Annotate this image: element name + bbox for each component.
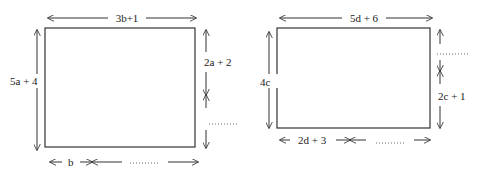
rect2-top-dimension: 5d + 6 bbox=[280, 12, 432, 24]
rect2-right-lower-label: 2c + 1 bbox=[438, 90, 466, 102]
rect1-top-dimension: 3b+1 bbox=[48, 12, 196, 24]
rect2-right-dimension: 2c + 1 bbox=[437, 30, 470, 128]
rect1-top-label: 3b+1 bbox=[116, 12, 139, 24]
rect2-right-gap bbox=[437, 44, 443, 60]
rect1-left-dimension: 5a + 4 bbox=[8, 30, 38, 150]
rectangle-2-group: 5d + 6 4c 2c + 1 2d + 3 bbox=[258, 12, 470, 146]
rect1-right-upper-label: 2a + 2 bbox=[204, 56, 232, 68]
rectangle-2 bbox=[277, 28, 430, 128]
rectangle-1 bbox=[45, 28, 195, 147]
rect1-bottom-left-label: b bbox=[68, 156, 74, 168]
rect2-left-label: 4c bbox=[260, 76, 271, 88]
diagram-canvas: 3b+1 5a + 4 2a + 2 b bbox=[0, 0, 481, 180]
rect2-bottom-dimension: 2d + 3 bbox=[280, 134, 430, 146]
rect1-right-dimension: 2a + 2 bbox=[203, 30, 239, 148]
rect1-left-label: 5a + 4 bbox=[10, 75, 38, 87]
rect1-right-gap bbox=[203, 108, 209, 130]
rect2-left-dimension: 4c bbox=[258, 32, 278, 128]
rectangle-1-group: 3b+1 5a + 4 2a + 2 b bbox=[8, 12, 239, 168]
rect2-bottom-left-label: 2d + 3 bbox=[298, 134, 327, 146]
rect2-top-label: 5d + 6 bbox=[350, 12, 379, 24]
rect1-bottom-dimension: b bbox=[50, 156, 198, 168]
